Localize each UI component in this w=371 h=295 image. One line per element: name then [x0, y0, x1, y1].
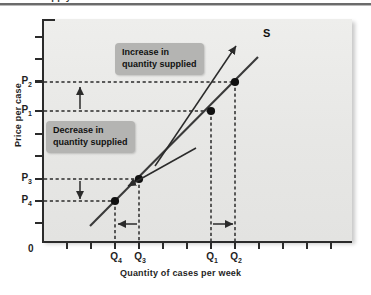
- y-tick-label-p4-sub: 4: [28, 200, 32, 207]
- y-tick-label-p2-sub: 2: [28, 81, 32, 88]
- x-tick-label-q1-base: Q: [206, 251, 214, 262]
- x-tick-label-q1-sub: 1: [214, 257, 218, 264]
- data-point-q2-p2: [231, 78, 239, 86]
- y-tick-label-p3-sub: 3: [28, 178, 32, 185]
- x-tick-label-q3: Q3: [130, 251, 150, 264]
- x-tick-label-q4: Q4: [106, 251, 126, 264]
- data-point-q4-p4: [111, 197, 119, 205]
- x-tick-label-q4-sub: 4: [118, 257, 122, 264]
- callout-decrease-quantity-supplied: Decrease in quantity supplied: [46, 121, 135, 153]
- x-tick-label-q2-sub: 2: [238, 257, 242, 264]
- x-tick-label-q1: Q1: [202, 251, 222, 264]
- callout-decrease-line-2: quantity supplied: [53, 137, 128, 149]
- data-point-q1-p1: [207, 107, 215, 115]
- x-tick-label-q3-base: Q: [134, 251, 142, 262]
- guide-lines: [44, 82, 235, 241]
- y-tick-label-p3: P3: [8, 172, 32, 185]
- callout-decrease-line-1: Decrease in: [53, 125, 128, 137]
- y-axis-title: Price per case: [13, 60, 23, 170]
- callout-increase-quantity-supplied: Increase in quantity supplied: [115, 43, 204, 75]
- origin-label: 0: [28, 243, 34, 254]
- y-tick-label-p1-sub: 1: [28, 110, 32, 117]
- x-axis-title: Quantity of cases per week: [120, 268, 241, 278]
- figure-root: supply: [0, 0, 371, 295]
- callout-increase-line-2: quantity supplied: [122, 59, 197, 71]
- x-tick-label-q3-sub: 3: [142, 257, 146, 264]
- x-tick-label-q2-base: Q: [230, 251, 238, 262]
- x-tick-label-q4-base: Q: [110, 251, 118, 262]
- supply-curve-label: S: [263, 27, 270, 39]
- y-tick-label-p4: P4: [8, 194, 32, 207]
- x-tick-label-q2: Q2: [226, 251, 246, 264]
- callout-increase-line-1: Increase in: [122, 47, 197, 59]
